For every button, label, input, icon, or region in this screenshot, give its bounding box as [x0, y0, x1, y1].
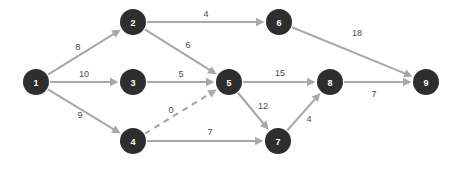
node-4[interactable]: 4 [120, 128, 146, 154]
edge-2-to-6 [147, 18, 265, 26]
node-label: 4 [130, 137, 135, 147]
edge-line [145, 29, 211, 70]
node-6[interactable]: 6 [266, 9, 292, 35]
node-2[interactable]: 2 [120, 9, 146, 35]
edge-weight-label: 7 [207, 127, 212, 137]
arrowhead-icon [307, 78, 316, 86]
node-label: 2 [130, 18, 135, 28]
edge-7-to-8 [287, 93, 320, 131]
edge-4-to-7 [147, 137, 264, 145]
node-label: 8 [327, 78, 332, 88]
edge-4-to-5 [145, 90, 217, 134]
graph-canvas: 81094650715124187 123456789 [0, 0, 461, 170]
edge-weight-label: 7 [371, 89, 376, 99]
node-3[interactable]: 3 [120, 69, 146, 95]
arrowhead-icon [256, 18, 265, 26]
edge-8-to-9 [344, 78, 412, 86]
edge-weight-label: 4 [203, 9, 208, 19]
edge-line [292, 27, 406, 74]
node-label: 9 [423, 78, 428, 88]
edge-3-to-5 [147, 78, 215, 86]
arrowhead-icon [255, 137, 264, 145]
arrowhead-icon [206, 78, 215, 86]
node-9[interactable]: 9 [413, 69, 439, 95]
edge-2-to-5 [145, 29, 217, 74]
node-label: 6 [276, 18, 281, 28]
node-label: 5 [226, 78, 231, 88]
node-5[interactable]: 5 [216, 69, 242, 95]
edge-weight-label: 18 [352, 28, 362, 38]
node-label: 1 [33, 78, 38, 88]
edge-weight-label: 6 [185, 40, 190, 50]
edge-weight-label: 9 [77, 110, 82, 120]
arrowhead-icon [207, 90, 216, 98]
edge-weight-label: 4 [306, 114, 311, 124]
edge-weight-label: 8 [75, 42, 80, 52]
edge-1-to-3 [50, 78, 119, 86]
edge-line [145, 93, 211, 133]
edge-5-to-8 [243, 78, 316, 86]
edge-weight-label: 12 [258, 101, 268, 111]
edge-5-to-7 [238, 93, 269, 130]
arrowhead-icon [110, 78, 119, 86]
network-diagram: 81094650715124187 123456789 [0, 0, 461, 170]
edge-1-to-4 [48, 89, 121, 133]
node-label: 7 [275, 137, 280, 147]
node-7[interactable]: 7 [265, 128, 291, 154]
node-8[interactable]: 8 [317, 69, 343, 95]
edge-weight-label: 0 [168, 105, 173, 115]
arrowhead-icon [403, 78, 412, 86]
edge-weight-label: 15 [275, 68, 285, 78]
node-label: 3 [130, 78, 135, 88]
node-1[interactable]: 1 [23, 69, 49, 95]
edge-1-to-2 [48, 30, 121, 75]
edge-weight-label: 10 [79, 69, 89, 79]
edge-weight-label: 5 [178, 69, 183, 79]
